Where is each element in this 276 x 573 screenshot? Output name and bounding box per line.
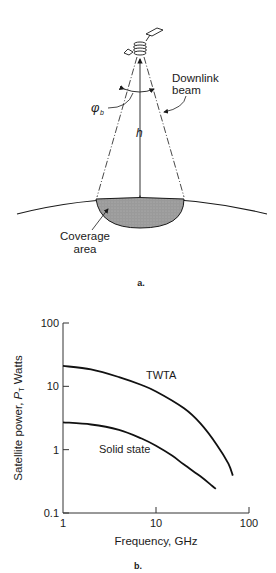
- downlink-label: Downlink: [172, 72, 219, 84]
- angle-subscript: b: [100, 109, 104, 116]
- x-tick-label: 100: [240, 517, 258, 529]
- y-tick-label: 10: [47, 380, 59, 392]
- series-line-twta: [63, 366, 233, 476]
- chart-axes: [63, 323, 249, 513]
- coverage-label-2: area: [73, 243, 97, 255]
- downlink-label-2: beam: [172, 84, 201, 96]
- downlink-leader-line: [164, 96, 186, 112]
- beam-angle-arc: [124, 89, 154, 92]
- figure-a-diagram: Downlink beam φ b h Coverage area a.: [17, 28, 267, 288]
- figure-canvas: Downlink beam φ b h Coverage area a. 0.1…: [0, 0, 276, 573]
- x-tick-label: 10: [150, 517, 162, 529]
- y-axis-label-suffix: Watts: [12, 355, 24, 387]
- figure-a-caption: a.: [137, 278, 145, 288]
- figure-b-chart: 0.1110100110100 Frequency, GHz Satellite…: [12, 317, 258, 571]
- y-tick-label: 1: [53, 444, 59, 456]
- y-axis-label: Satellite power, PT Watts: [12, 355, 25, 481]
- angle-leader-line: [108, 93, 133, 108]
- height-label: h: [136, 126, 143, 140]
- series-line-solid-state: [63, 422, 216, 489]
- series-label-solid-state: Solid state: [99, 443, 150, 455]
- angle-phi-label: φ: [91, 100, 100, 115]
- y-tick-label: 100: [41, 317, 59, 329]
- satellite-icon: [124, 28, 163, 55]
- series-label-twta: TWTA: [146, 369, 177, 381]
- x-tick-label: 1: [60, 517, 66, 529]
- coverage-area: [96, 198, 184, 229]
- y-axis-label-prefix: Satellite power,: [12, 399, 24, 480]
- beam-edge-left: [97, 57, 137, 197]
- x-axis-label: Frequency, GHz: [115, 535, 198, 547]
- y-tick-label: 0.1: [44, 507, 59, 519]
- figure-b-caption: b.: [134, 561, 142, 571]
- coverage-label: Coverage: [60, 230, 110, 242]
- chart-series: [63, 366, 233, 489]
